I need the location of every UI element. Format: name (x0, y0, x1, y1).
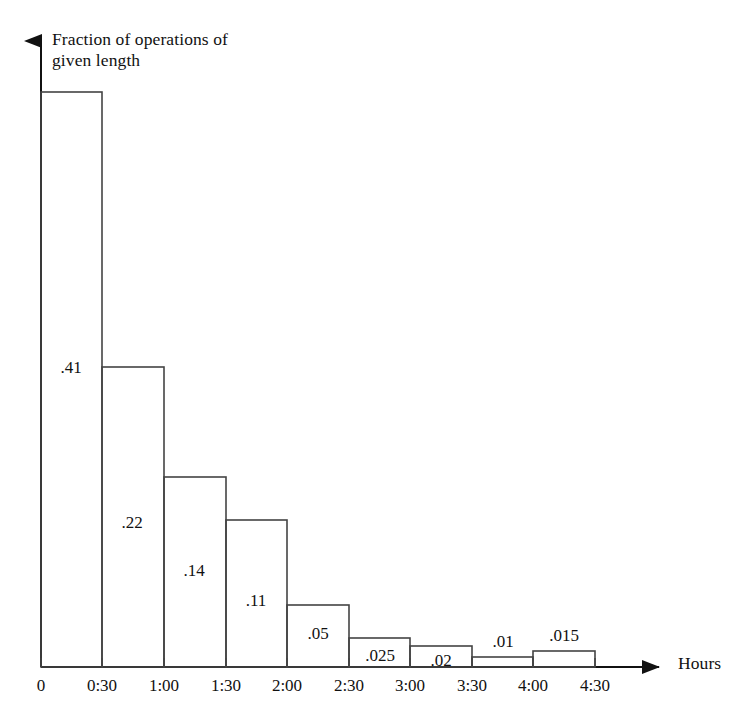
x-tick-label-1-30: 1:30 (211, 676, 241, 696)
x-tick-label-4-30: 4:30 (580, 676, 610, 696)
bar-value-label-5: .025 (365, 646, 395, 666)
bar-value-label-4: .05 (307, 624, 328, 644)
bar-value-label-3: .11 (246, 591, 267, 611)
x-tick-label-2-30: 2:30 (334, 676, 364, 696)
bar-0-0-30 (41, 92, 102, 667)
x-axis-ticks (41, 658, 595, 667)
x-axis-title: Hours (678, 653, 721, 674)
y-axis-title: Fraction of operations of given length (52, 29, 352, 71)
x-tick-label-3-30: 3:30 (457, 676, 487, 696)
bar-3-30-4-00 (472, 657, 533, 667)
bar-value-label-6: .02 (430, 651, 451, 671)
bar-value-label-2: .14 (183, 561, 204, 581)
x-tick-label-4-00: 4:00 (518, 676, 548, 696)
histogram-chart: Fraction of operations of given length H… (0, 0, 748, 725)
bar-value-label-0: .41 (60, 358, 81, 378)
x-tick-label-2-00: 2:00 (272, 676, 302, 696)
bar-4-00-4-30 (533, 651, 595, 667)
x-tick-label-1-00: 1:00 (149, 676, 179, 696)
x-tick-label-3-00: 3:00 (395, 676, 425, 696)
x-tick-label-0-30: 0:30 (87, 676, 117, 696)
histogram-bars (41, 92, 595, 667)
bar-value-label-8: .015 (549, 626, 579, 646)
x-tick-label-0: 0 (37, 676, 46, 696)
bar-value-label-1: .22 (121, 513, 142, 533)
bar-value-label-7: .01 (492, 632, 513, 652)
chart-canvas (0, 0, 748, 725)
